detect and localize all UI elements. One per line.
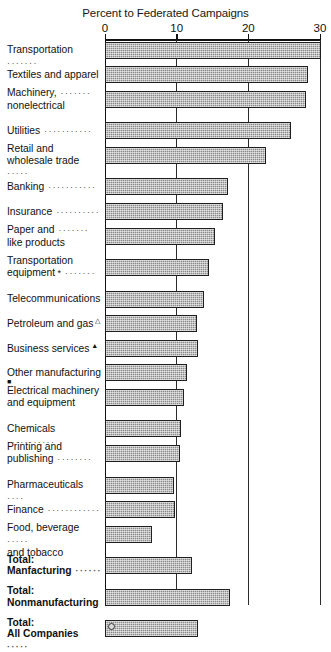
row-label-total-manufacturing: Total:Manfacturing ······ (7, 554, 103, 578)
chart-row: Printing andpublishing ········ (0, 445, 331, 477)
row-label-petroleum-and-gas: Petroleum and gas △ (7, 318, 103, 330)
row-label-line: nonelectrical (7, 100, 103, 112)
row-label-textiles-and-apparel: Textiles and apparel (7, 69, 103, 81)
row-label-line: Manfacturing ······ (7, 565, 103, 578)
bar-total-nonmanufacturing (105, 589, 230, 606)
chart-row: Total:All Companies ····· (0, 620, 331, 652)
row-label-line: equipment * ······· (7, 267, 103, 280)
row-label-line: Finance ············ (7, 504, 103, 517)
x-tick-label-30: 30 (308, 22, 331, 34)
chart-row: Business services ▲ (0, 340, 331, 365)
row-label-line: Total: (7, 617, 103, 629)
bar-electrical-machinery-and-equipment (105, 389, 184, 406)
row-label-line: Business services ▲ (7, 343, 103, 355)
row-label-line: Printing and (7, 441, 103, 453)
row-label-paper-and-like-products: Paper and ·······like products (7, 224, 103, 248)
chart-row: Retail andwholesale trade ····· (0, 147, 331, 179)
leader-dots: ····· (7, 536, 29, 546)
row-label-business-services: Business services ▲ (7, 343, 103, 355)
chart-row: Paper and ·······like products (0, 228, 331, 260)
row-label-banking: Banking ··········· (7, 181, 103, 194)
row-label-telecommunications: Telecommunications (7, 293, 103, 305)
row-label-line: Textiles and apparel (7, 69, 103, 81)
chart-row: Food, beverage ·····and tobacco (0, 526, 331, 558)
row-label-line: Transportation (7, 255, 103, 267)
row-label-line: and equipment (7, 397, 103, 409)
row-label-line: Retail and (7, 143, 103, 155)
bar-chemicals (105, 420, 181, 437)
row-label-line: All Companies ····· (7, 628, 103, 652)
bar-transportation-equipment (105, 259, 209, 276)
row-label-line: Total: (7, 585, 103, 597)
bar-banking (105, 178, 228, 195)
row-label-line: Electrical machinery (7, 385, 103, 397)
leader-dots: ········ (53, 454, 92, 464)
row-label-line: Banking ··········· (7, 181, 103, 194)
bar-business-services (105, 340, 198, 357)
leader-dots: ············ (44, 505, 101, 515)
row-label-finance: Finance ············ (7, 504, 103, 517)
row-label-line: Food, beverage ····· (7, 522, 103, 547)
leader-dots: ······· (57, 88, 92, 98)
chart-row: Transportationequipment * ······· (0, 259, 331, 291)
row-marker-icon: ▲ (89, 341, 98, 348)
chart-row: Electrical machineryand equipment (0, 389, 331, 421)
row-label-line: Petroleum and gas △ (7, 318, 103, 330)
row-label-line: Total: (7, 554, 103, 566)
row-label-printing-and-publishing: Printing andpublishing ········ (7, 441, 103, 465)
chart-row: Telecommunications (0, 291, 331, 316)
row-marker-icon: ■ (7, 377, 11, 384)
x-tick-label-0: 0 (93, 22, 117, 34)
row-label-transportation-equipment: Transportationequipment * ······· (7, 255, 103, 279)
row-label-total-all-companies: Total:All Companies ····· (7, 617, 103, 652)
row-label-line: Nonmanufacturing (7, 597, 103, 609)
leader-dots: ······· (61, 268, 96, 278)
x-axis-title: Percent to Federated Campaigns (0, 7, 331, 19)
leader-dots: ·········· (52, 207, 100, 217)
x-tick-label-10: 10 (165, 22, 189, 34)
row-label-line: publishing ········ (7, 453, 103, 466)
leader-dots: ··········· (40, 126, 92, 136)
row-label-utilities: Utilities ··········· (7, 125, 103, 138)
chart-row: Machinery, ·······nonelectrical (0, 91, 331, 123)
bar-transportation (105, 42, 321, 59)
bar-other-manufacturing (105, 364, 187, 381)
row-label-electrical-machinery-and-equipment: Electrical machineryand equipment (7, 385, 103, 408)
leader-dots: ····· (7, 642, 29, 652)
bar-petroleum-and-gas (105, 315, 197, 332)
row-label-line: wholesale trade ····· (7, 155, 103, 180)
bar-paper-and-like-products (105, 228, 215, 245)
bar-total-manufacturing (105, 557, 192, 574)
bar-telecommunications (105, 291, 204, 308)
bar-total-all-companies (105, 620, 198, 637)
leader-dots: ······· (55, 225, 90, 235)
bar-retail-and-wholesale-trade (105, 147, 266, 164)
row-marker-icon: △ (93, 317, 100, 324)
bar-printing-and-publishing (105, 445, 180, 462)
leader-dots: ······ (72, 566, 102, 576)
leader-dots: ··········· (44, 182, 96, 192)
chart-row: Pharmaceuticals ···· (0, 477, 331, 502)
bar-insurance (105, 203, 223, 220)
bar-pharmaceuticals (105, 477, 174, 494)
chart-row: Total:Nonmanufacturing (0, 589, 331, 621)
leader-dots: ····· (7, 168, 29, 178)
bar-food-beverage-and-tobacco (105, 526, 152, 543)
row-label-line: Insurance ·········· (7, 206, 103, 219)
bar-utilities (105, 122, 291, 139)
row-label-line: Paper and ······· (7, 224, 103, 237)
bar-machinery-nonelectrical (105, 91, 306, 108)
row-label-line: Utilities ··········· (7, 125, 103, 138)
chart-row: Banking ··········· (0, 178, 331, 203)
chart-row: Petroleum and gas △ (0, 315, 331, 340)
x-axis-line (105, 39, 321, 41)
row-label-retail-and-wholesale-trade: Retail andwholesale trade ····· (7, 143, 103, 180)
row-label-machinery-nonelectrical: Machinery, ·······nonelectrical (7, 87, 103, 111)
x-tick-label-20: 20 (236, 22, 260, 34)
row-label-total-nonmanufacturing: Total:Nonmanufacturing (7, 585, 103, 608)
bar-textiles-and-apparel (105, 66, 308, 83)
row-label-insurance: Insurance ·········· (7, 206, 103, 219)
row-label-line: like products (7, 237, 103, 249)
bar-finance (105, 501, 175, 518)
